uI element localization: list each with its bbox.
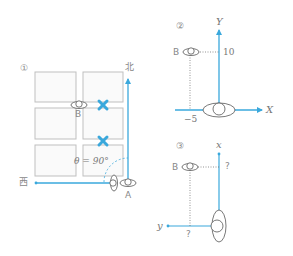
x-axis-label: X: [266, 105, 273, 115]
y-value-label: 10: [223, 48, 234, 57]
point-b-label: B: [173, 48, 179, 57]
robot-b-icon: [182, 163, 198, 171]
y-axis-end-dot: [167, 225, 170, 228]
y-axis-label: y: [157, 221, 163, 231]
block: [35, 145, 76, 176]
point-a-label: A: [125, 191, 131, 200]
x-axis-label: x: [216, 140, 222, 150]
block: [83, 72, 123, 102]
block: [35, 72, 76, 102]
north-label: 北: [125, 63, 134, 72]
y-axis-label: Y: [216, 17, 223, 27]
robot-a-north-icon: [120, 179, 136, 187]
angle-label: θ = 90°: [74, 157, 109, 166]
diagram-canvas: [0, 0, 293, 256]
point-b-label: B: [75, 110, 81, 119]
x-axis-end-dot: [218, 153, 221, 156]
point-b-label: B: [172, 163, 178, 172]
x-value-label: −5: [184, 115, 197, 124]
robot-b-icon: [183, 48, 199, 56]
y-unknown-label: ?: [186, 230, 191, 239]
panel3-number: ③: [176, 142, 184, 151]
panel1-number: ①: [20, 64, 28, 73]
x-unknown-label: ?: [225, 162, 230, 171]
panel2-number: ②: [176, 22, 184, 31]
block: [35, 108, 76, 139]
robot-a-west-icon: [110, 175, 118, 191]
block: [83, 108, 123, 139]
robot-origin-icon: [203, 103, 235, 117]
west-line-end-dot: [35, 182, 38, 185]
robot-origin-icon: [211, 210, 226, 242]
west-label: 西: [19, 178, 28, 187]
